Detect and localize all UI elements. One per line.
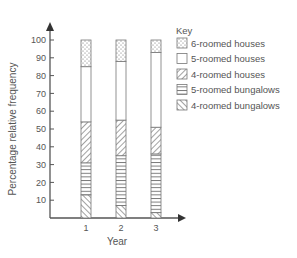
legend-swatch-diagonal-down-icon <box>177 69 187 79</box>
stacked-bar-chart: 102030405060708090100 123 Percentage rel… <box>0 0 297 258</box>
bar-segment-5-roomed-bungalows <box>81 163 91 195</box>
y-axis-arrow-icon <box>46 22 54 31</box>
legend-item: 5-roomed bungalows <box>177 84 280 95</box>
legend-item: 4-roomed houses <box>177 69 265 80</box>
bar-segment-4-roomed-bungalows <box>151 213 161 218</box>
y-tick: 90 <box>36 53 54 63</box>
bar-segment-6-roomed-houses <box>116 40 126 61</box>
y-tick-label: 90 <box>36 53 46 63</box>
legend-item: 6-roomed houses <box>177 38 265 49</box>
legend-swatch-dotted-icon <box>177 38 187 48</box>
legend-label: 4-roomed bungalows <box>191 100 280 111</box>
y-axis-title: Percentage relative frequency <box>7 63 18 196</box>
bar-segment-6-roomed-houses <box>151 40 161 52</box>
legend-swatch-blank-icon <box>177 54 187 64</box>
y-tick-label: 60 <box>36 106 46 116</box>
y-tick-label: 50 <box>36 124 46 134</box>
bar-segment-5-roomed-bungalows <box>151 154 161 213</box>
x-tick-label: 2 <box>118 223 123 233</box>
legend-label: 5-roomed houses <box>191 53 265 64</box>
legend-label: 4-roomed houses <box>191 69 265 80</box>
bar-segment-6-roomed-houses <box>81 40 91 67</box>
x-tick-label: 1 <box>83 223 88 233</box>
y-tick-label: 80 <box>36 71 46 81</box>
y-tick: 70 <box>36 89 54 99</box>
legend-title: Key <box>176 25 193 36</box>
bar-segment-5-roomed-houses <box>81 67 91 122</box>
y-tick: 40 <box>36 142 54 152</box>
bar-segment-5-roomed-houses <box>151 52 161 127</box>
y-axis: 102030405060708090100 <box>31 22 54 218</box>
bar-segment-4-roomed-houses <box>81 122 91 163</box>
bar-year-2 <box>116 40 126 218</box>
bar-segment-4-roomed-bungalows <box>81 195 91 218</box>
bar-segment-4-roomed-houses <box>151 127 161 154</box>
x-axis-arrow-icon <box>178 214 186 222</box>
y-tick-label: 40 <box>36 142 46 152</box>
bar-segment-4-roomed-houses <box>116 120 126 156</box>
legend-item: 5-roomed houses <box>177 53 265 64</box>
y-tick-label: 70 <box>36 89 46 99</box>
legend: Key 6-roomed houses5-roomed houses4-room… <box>176 25 280 111</box>
y-tick-label: 30 <box>36 160 46 170</box>
bar-year-3 <box>151 40 161 218</box>
legend-label: 5-roomed bungalows <box>191 84 280 95</box>
y-tick-label: 10 <box>36 195 46 205</box>
legend-item: 4-roomed bungalows <box>177 100 280 111</box>
y-tick-label: 20 <box>36 178 46 188</box>
y-tick: 10 <box>36 195 54 205</box>
y-tick: 50 <box>36 124 54 134</box>
legend-swatch-diagonal-up-icon <box>177 100 187 110</box>
y-tick-label: 100 <box>31 35 46 45</box>
legend-label: 6-roomed houses <box>191 38 265 49</box>
legend-swatch-horizontal-icon <box>177 85 187 95</box>
bar-segment-5-roomed-bungalows <box>116 156 126 206</box>
bars <box>81 40 161 218</box>
y-tick: 20 <box>36 178 54 188</box>
x-tick-label: 3 <box>153 223 158 233</box>
bar-segment-5-roomed-houses <box>116 61 126 120</box>
y-tick: 80 <box>36 71 54 81</box>
y-tick: 60 <box>36 106 54 116</box>
bar-year-1 <box>81 40 91 218</box>
bar-segment-4-roomed-bungalows <box>116 206 126 218</box>
x-axis-title: Year <box>107 236 128 247</box>
y-tick: 30 <box>36 160 54 170</box>
